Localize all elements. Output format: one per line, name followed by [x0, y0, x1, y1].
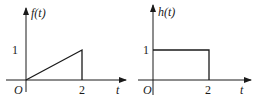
- signal-diagrams: f(t) 1 O 2 t h(t) 1 O 2 t: [0, 0, 262, 108]
- x-tick-2: 2: [79, 83, 85, 97]
- pulse-signal: [153, 50, 209, 80]
- y-tick-1: 1: [12, 43, 18, 57]
- plot-h: h(t) 1 O 2 t: [138, 5, 251, 97]
- x-axis-label: t: [240, 83, 244, 97]
- origin-label: O: [143, 83, 152, 97]
- origin-label: O: [14, 83, 23, 97]
- x-axis-label: t: [116, 83, 120, 97]
- y-axis-label: h(t): [158, 5, 175, 19]
- y-tick-1: 1: [143, 43, 149, 57]
- plot-f: f(t) 1 O 2 t: [6, 6, 126, 97]
- x-tick-2: 2: [205, 83, 211, 97]
- ramp-signal: [26, 50, 82, 80]
- y-axis-label: f(t): [31, 6, 46, 20]
